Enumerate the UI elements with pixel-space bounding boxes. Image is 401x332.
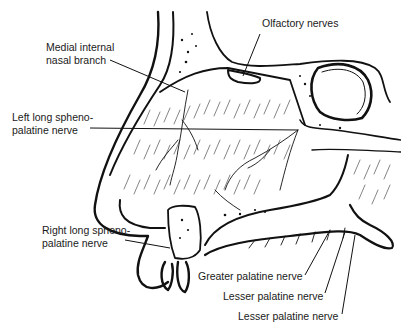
stipple bbox=[179, 33, 341, 239]
nerve-branches bbox=[156, 90, 345, 248]
label-left-long-line2: palatine nerve bbox=[12, 124, 78, 137]
label-medial-internal-line1: Medial internal bbox=[46, 41, 114, 54]
sphenoid-sinus bbox=[311, 64, 371, 120]
premaxilla bbox=[168, 206, 201, 259]
label-right-long-line2: palatine nerve bbox=[42, 237, 108, 250]
hatching bbox=[124, 100, 390, 204]
label-lesser-palatine-2: Lesser palatine nerve bbox=[238, 310, 338, 323]
label-lesser-palatine-1: Lesser palatine nerve bbox=[223, 290, 323, 303]
posterior-wall bbox=[300, 120, 401, 140]
label-olfactory-nerves: Olfactory nerves bbox=[262, 17, 338, 30]
teeth bbox=[162, 262, 189, 292]
cribriform-contour bbox=[160, 68, 305, 125]
label-medial-internal-line2: nasal branch bbox=[46, 54, 106, 67]
hard-palate-lower bbox=[205, 205, 393, 255]
label-right-long-line1: Right long spheno- bbox=[42, 224, 130, 237]
label-left-long-line1: Left long spheno- bbox=[12, 111, 93, 124]
anatomical-diagram: Olfactory nerves Medial internal nasal b… bbox=[0, 0, 401, 332]
label-greater-palatine: Greater palatine nerve bbox=[198, 270, 302, 283]
